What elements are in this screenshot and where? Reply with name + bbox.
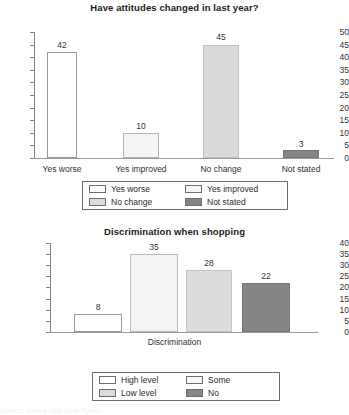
legend-swatch-icon	[186, 389, 203, 397]
x-category-label: Yes improved	[101, 164, 181, 174]
bar-low-level[interactable]	[186, 270, 232, 332]
bottom-cut-text: Source: survey data table figures	[0, 407, 349, 415]
legend-label: Yes worse	[111, 184, 150, 195]
bar-not-stated[interactable]	[283, 150, 319, 158]
bar-value-label: 35	[134, 243, 174, 252]
legend-label: No	[208, 388, 219, 399]
bar-value-label: 10	[121, 122, 161, 131]
legend-item-yes-worse[interactable]: Yes worse	[89, 184, 185, 195]
x-category-label: No change	[181, 164, 261, 174]
plot-area-discrimination: 40 35 30 25 20 15 10 5 0	[0, 240, 349, 370]
legend-label: Some	[208, 375, 230, 386]
legend-swatch-icon	[186, 376, 203, 384]
bar-high-level[interactable]	[74, 314, 122, 332]
legend-item-yes-improved[interactable]: Yes improved	[185, 184, 281, 195]
bar-value-label: 28	[189, 259, 229, 268]
x-category-label: Not stated	[261, 164, 341, 174]
legend-attitudes: Yes worse Yes improved No change Not sta…	[82, 181, 288, 210]
legend-item-not-stated[interactable]: Not stated	[185, 197, 281, 208]
legend-swatch-icon	[185, 185, 202, 193]
legend-item-no-change[interactable]: No change	[89, 197, 185, 208]
bar-value-label: 42	[42, 41, 82, 50]
bar-value-label: 8	[78, 303, 118, 312]
legend-item-low-level[interactable]: Low level	[99, 388, 186, 399]
chart-title-attitudes: Have attitudes changed in last year?	[0, 0, 349, 14]
legend-swatch-icon	[89, 198, 106, 206]
legend-item-some[interactable]: Some	[186, 375, 273, 386]
legend-label: Not stated	[207, 197, 246, 208]
chart-attitudes: Have attitudes changed in last year? 50 …	[0, 0, 349, 215]
bar-yes-improved[interactable]	[123, 133, 159, 158]
legend-discrimination: High level Some Low level No	[92, 372, 280, 401]
bar-yes-worse[interactable]	[47, 52, 77, 158]
chart-discrimination: Discrimination when shopping 40 35 30 25…	[0, 226, 349, 406]
plot-area-attitudes: 50 45 40 35 30 25 20 15 10 5 0	[0, 14, 349, 164]
legend-swatch-icon	[185, 198, 202, 206]
x-category-label: Yes worse	[22, 164, 102, 174]
bar-no-change[interactable]	[203, 45, 239, 158]
legend-label: No change	[111, 197, 152, 208]
bar-no[interactable]	[242, 283, 290, 332]
x-axis-title-discrimination: Discrimination	[0, 337, 349, 347]
bar-value-label: 45	[201, 33, 241, 42]
legend-swatch-icon	[99, 389, 116, 397]
legend-swatch-icon	[89, 185, 106, 193]
bar-value-label: 22	[246, 272, 286, 281]
bar-some[interactable]	[130, 254, 178, 332]
bar-value-label: 3	[281, 140, 321, 149]
bars-discrimination	[0, 240, 349, 370]
chart-title-discrimination: Discrimination when shopping	[0, 226, 349, 238]
legend-item-no[interactable]: No	[186, 388, 273, 399]
legend-swatch-icon	[99, 376, 116, 384]
legend-label: Yes improved	[207, 184, 258, 195]
legend-label: High level	[121, 375, 158, 386]
legend-label: Low level	[121, 388, 156, 399]
legend-item-high-level[interactable]: High level	[99, 375, 186, 386]
